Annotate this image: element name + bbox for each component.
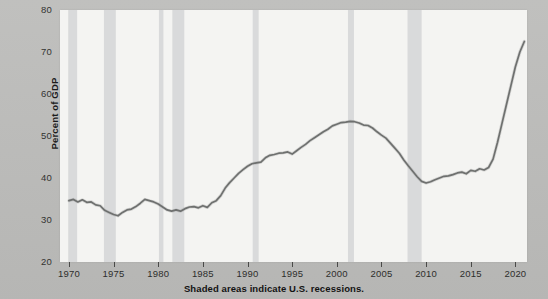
x-axis-tick-mark bbox=[337, 262, 338, 267]
recession-band bbox=[348, 10, 354, 262]
y-axis-tick-label: 80 bbox=[26, 4, 52, 15]
chart-figure: Percent of GDP 80706050403020 1970197519… bbox=[0, 0, 548, 299]
x-axis-tick-label: 2020 bbox=[495, 268, 535, 279]
y-axis-tick-label: 40 bbox=[26, 172, 52, 183]
x-axis-tick-label: 2000 bbox=[317, 268, 357, 279]
x-axis-tick-mark bbox=[381, 262, 382, 267]
line-chart-svg bbox=[60, 10, 527, 262]
x-axis-tick-mark bbox=[69, 262, 70, 267]
data-line bbox=[69, 42, 524, 216]
recession-band bbox=[408, 10, 422, 262]
plot-area bbox=[60, 10, 527, 262]
y-axis-tick-label: 70 bbox=[26, 46, 52, 57]
x-axis-tick-label: 2015 bbox=[451, 268, 491, 279]
y-axis-tick-label: 60 bbox=[26, 88, 52, 99]
x-axis-tick-mark bbox=[515, 262, 516, 267]
x-axis-tick-mark bbox=[426, 262, 427, 267]
y-axis-tick-label: 20 bbox=[26, 256, 52, 267]
x-axis-tick-label: 1990 bbox=[228, 268, 268, 279]
y-axis-title: Percent of GDP bbox=[49, 54, 60, 174]
recession-band bbox=[159, 10, 163, 262]
x-axis-tick-label: 1995 bbox=[272, 268, 312, 279]
x-axis-tick-label: 1970 bbox=[49, 268, 89, 279]
recession-band bbox=[104, 10, 116, 262]
recession-band bbox=[253, 10, 259, 262]
recession-band bbox=[68, 10, 77, 262]
y-axis-tick-label: 30 bbox=[26, 214, 52, 225]
data-line-shadow bbox=[69, 42, 524, 216]
x-axis-tick-mark bbox=[203, 262, 204, 267]
x-axis-tick-mark bbox=[471, 262, 472, 267]
x-axis-tick-mark bbox=[114, 262, 115, 267]
recession-bands bbox=[68, 10, 421, 262]
x-axis-tick-mark bbox=[158, 262, 159, 267]
recession-band bbox=[172, 10, 184, 262]
x-axis-tick-label: 2010 bbox=[406, 268, 446, 279]
x-axis-tick-mark bbox=[248, 262, 249, 267]
x-axis-tick-label: 1985 bbox=[183, 268, 223, 279]
x-axis-tick-label: 1975 bbox=[94, 268, 134, 279]
x-axis-tick-mark bbox=[292, 262, 293, 267]
chart-caption: Shaded areas indicate U.S. recessions. bbox=[0, 283, 548, 294]
x-axis-tick-label: 1980 bbox=[138, 268, 178, 279]
y-axis-tick-label: 50 bbox=[26, 130, 52, 141]
x-axis-tick-label: 2005 bbox=[361, 268, 401, 279]
